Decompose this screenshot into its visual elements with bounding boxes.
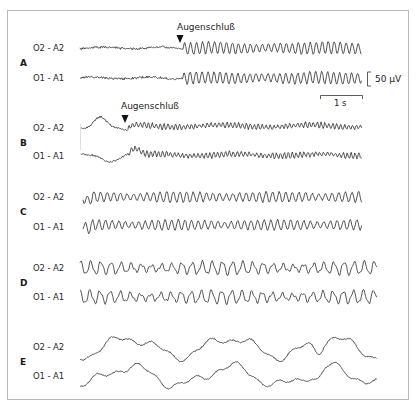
eeg-trace-a-o2a2	[80, 41, 361, 54]
eyes-closed-arrow-a-icon	[177, 35, 184, 43]
eeg-traces	[0, 0, 419, 412]
eeg-trace-e-o1a1	[80, 362, 377, 389]
eeg-trace-b-o1a1	[81, 146, 362, 163]
voltage-scale-bracket	[368, 72, 372, 86]
eeg-trace-c-o1a1	[83, 219, 362, 234]
eeg-trace-a-o1a1	[80, 71, 361, 84]
eyes-closed-arrow-b-icon	[122, 115, 129, 123]
eeg-trace-d-o2a2	[80, 260, 377, 275]
eeg-trace-c-o2a2	[83, 191, 362, 203]
eeg-trace-d-o1a1	[80, 289, 377, 304]
time-scale-bar	[321, 96, 363, 100]
eeg-trace-e-o2a2	[80, 337, 377, 362]
